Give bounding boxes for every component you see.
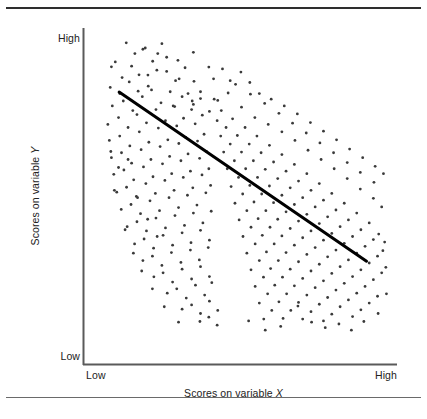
scatter-point (359, 188, 362, 191)
scatter-point (241, 193, 244, 196)
scatter-point (131, 109, 134, 112)
scatter-point (293, 244, 296, 247)
scatter-point (264, 329, 267, 332)
scatter-point (160, 101, 163, 104)
scatter-point (172, 105, 175, 108)
scatter-point (192, 212, 195, 215)
scatter-point (320, 158, 323, 161)
scatter-point (380, 206, 383, 209)
scatter-point (164, 226, 167, 229)
scatter-point (285, 292, 288, 295)
scatter-point (127, 158, 130, 161)
scatter-point (158, 209, 161, 212)
scatter-point (166, 292, 169, 295)
scatter-point (133, 52, 136, 55)
scatter-point (128, 145, 131, 148)
scatter-point (216, 324, 219, 327)
scatter-point (305, 132, 308, 135)
scatter-point (333, 167, 336, 170)
scatter-point (122, 100, 125, 103)
scatter-point (244, 167, 247, 170)
scatter-point (190, 303, 193, 306)
scatter-point (174, 214, 177, 217)
scatter-point (297, 180, 300, 183)
scatter-point (127, 126, 130, 129)
scatter-point (285, 210, 288, 213)
scatter-point (372, 238, 375, 241)
scatter-point (159, 145, 162, 148)
scatter-point (220, 109, 223, 112)
scatter-point (190, 108, 193, 111)
scatter-point (359, 308, 362, 311)
scatter-point (190, 241, 193, 244)
scatter-point (140, 270, 143, 273)
scatter-point (256, 135, 259, 138)
scatter-point (199, 265, 202, 268)
scatter-point (368, 262, 371, 265)
scatter-point (150, 89, 153, 92)
scatter-point (269, 226, 272, 229)
scatter-point (280, 130, 283, 133)
scatter-point (374, 165, 377, 168)
y-axis-low-tick-label: Low (38, 350, 80, 362)
scatter-point (250, 226, 253, 229)
scatter-point (267, 123, 270, 126)
scatter-point (171, 281, 174, 284)
scatter-point (181, 308, 184, 311)
scatter-point (144, 47, 147, 50)
scatter-point (376, 255, 379, 258)
scatter-point (109, 150, 112, 153)
y-axis-high-tick-label: High (38, 32, 80, 44)
scatter-point (165, 70, 168, 73)
scatter-point (326, 215, 329, 218)
scatter-point (145, 121, 148, 124)
scatter-point (310, 270, 313, 273)
scatter-point (335, 209, 338, 212)
scatter-point (326, 255, 329, 258)
scatter-point (322, 239, 325, 242)
scatter-point (297, 260, 300, 263)
scatter-point (152, 175, 155, 178)
scatter-point (216, 99, 219, 102)
scatter-point (240, 71, 243, 74)
scatter-point (225, 126, 228, 129)
scatter-point (332, 151, 335, 154)
scatter-point (322, 320, 325, 323)
scatter-point (233, 159, 236, 162)
scatter-point (249, 93, 252, 96)
scatter-point (113, 189, 116, 192)
scatter-point (170, 172, 173, 175)
scatter-point (289, 227, 292, 230)
scatter-point (109, 86, 112, 89)
scatter-point (293, 284, 296, 287)
scatter-point (296, 113, 299, 116)
scatter-point (280, 194, 283, 197)
scatter-point (282, 317, 285, 320)
scatter-point (355, 292, 358, 295)
scatter-point (110, 156, 113, 159)
x-axis-high-tick-label: High (353, 369, 397, 381)
scatter-point (133, 243, 136, 246)
scatter-point (335, 289, 338, 292)
scatter-point (203, 294, 206, 297)
scatter-point (258, 302, 261, 305)
scatter-point (207, 316, 210, 319)
scatter-point (147, 85, 150, 88)
scatter-point (269, 267, 272, 270)
scatter-point (111, 105, 114, 108)
scatter-point (254, 243, 257, 246)
scatter-point (201, 174, 204, 177)
scatter-point (256, 176, 259, 179)
scatter-point (170, 251, 173, 254)
scatter-point (191, 100, 194, 103)
scatter-point (245, 252, 248, 255)
scatter-point (314, 246, 317, 249)
scatter-point (318, 263, 321, 266)
scatter-point (187, 153, 190, 156)
scatter-point (261, 234, 264, 237)
scatter-point (175, 125, 178, 128)
scatter-point (161, 162, 164, 165)
scatter-point (198, 157, 201, 160)
scatter-point (383, 241, 386, 244)
scatter-point (221, 68, 224, 71)
